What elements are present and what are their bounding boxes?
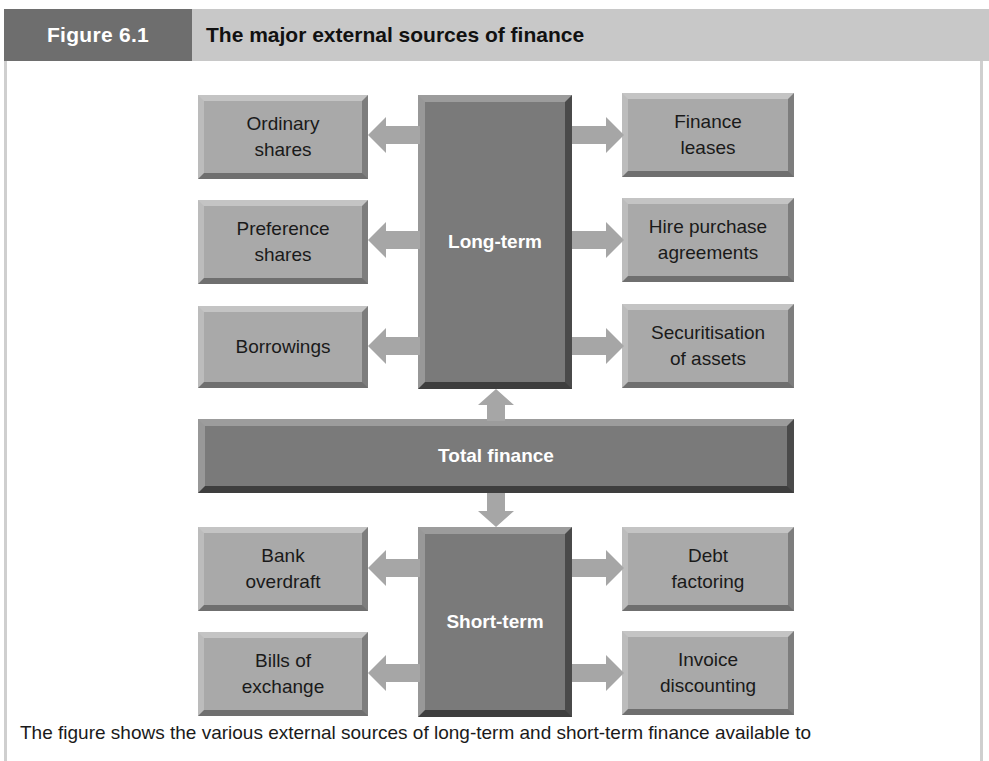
box-debt-factoring: Debt factoring [622, 527, 794, 611]
box-label: Securitisation of assets [651, 320, 765, 372]
figure-header: Figure 6.1 The major external sources of… [4, 9, 989, 61]
box-label: Invoice discounting [660, 647, 756, 699]
box-finance-leases: Finance leases [622, 93, 794, 177]
box-invoice-discounting: Invoice discounting [622, 631, 794, 715]
arrow-down-icon [478, 493, 514, 527]
box-label: Finance leases [674, 109, 742, 161]
box-label: Ordinary shares [247, 111, 320, 163]
box-label: Debt factoring [672, 543, 745, 595]
box-securitisation-of-assets: Securitisation of assets [622, 304, 794, 388]
arrow-right-icon [572, 117, 624, 153]
box-label: Borrowings [235, 334, 330, 360]
box-hire-purchase-agreements: Hire purchase agreements [622, 198, 794, 282]
arrow-left-icon [368, 117, 420, 153]
arrow-right-icon [572, 550, 624, 586]
box-label: Bills of exchange [242, 648, 324, 700]
box-short-term: Short-term [418, 527, 572, 717]
box-preference-shares: Preference shares [198, 200, 368, 284]
arrow-left-icon [368, 550, 420, 586]
arrow-up-icon [478, 389, 514, 421]
box-label: Total finance [438, 443, 554, 469]
box-label: Long-term [448, 229, 542, 255]
box-label: Preference shares [237, 216, 330, 268]
arrow-right-icon [572, 328, 624, 364]
box-bills-of-exchange: Bills of exchange [198, 632, 368, 716]
arrow-left-icon [368, 222, 420, 258]
arrow-left-icon [368, 655, 420, 691]
figure-label: Figure 6.1 [4, 9, 192, 61]
arrow-left-icon [368, 328, 420, 364]
box-long-term: Long-term [418, 95, 572, 389]
arrow-right-icon [572, 655, 624, 691]
box-borrowings: Borrowings [198, 306, 368, 388]
box-label: Short-term [446, 609, 543, 635]
arrow-right-icon [572, 222, 624, 258]
figure-title: The major external sources of finance [192, 9, 989, 61]
figure-caption: The figure shows the various external so… [20, 722, 980, 744]
box-label: Bank overdraft [246, 543, 321, 595]
box-label: Hire purchase agreements [649, 214, 767, 266]
box-bank-overdraft: Bank overdraft [198, 527, 368, 611]
box-ordinary-shares: Ordinary shares [198, 95, 368, 179]
box-total-finance: Total finance [198, 419, 794, 493]
